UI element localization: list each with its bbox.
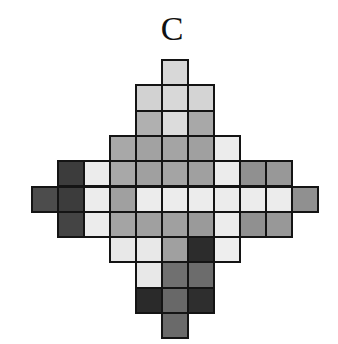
grid-cell [161, 186, 189, 213]
grid-cell [161, 59, 189, 86]
grid-cell [161, 160, 189, 187]
grid-cell [239, 160, 267, 187]
grid-cell [213, 160, 241, 187]
grid-cell [135, 261, 163, 288]
grid-cell [187, 261, 215, 288]
grid-cell [135, 135, 163, 162]
grid-cell [135, 211, 163, 238]
grid-cell [161, 110, 189, 137]
grayscale-cell-grid [0, 0, 338, 344]
grid-cell [187, 110, 215, 137]
grid-cell [239, 186, 267, 213]
grid-cell [109, 211, 137, 238]
grid-cell [187, 186, 215, 213]
grid-cell [135, 287, 163, 314]
grid-cell [239, 211, 267, 238]
grid-cell [213, 211, 241, 238]
grid-cell [213, 186, 241, 213]
grid-cell [135, 84, 163, 111]
grid-cell [161, 261, 189, 288]
grid-cell [213, 135, 241, 162]
grid-cell [265, 186, 293, 213]
grid-cell [161, 135, 189, 162]
grid-cell [31, 186, 59, 213]
grid-cell [109, 236, 137, 263]
grid-cell [57, 186, 85, 213]
grid-cell [213, 236, 241, 263]
grid-cell [83, 186, 111, 213]
grid-cell [135, 186, 163, 213]
grid-cell [57, 160, 85, 187]
grid-cell [187, 211, 215, 238]
grid-cell [109, 186, 137, 213]
grid-cell [187, 236, 215, 263]
grid-cell [109, 160, 137, 187]
grid-cell [109, 135, 137, 162]
grid-cell [187, 84, 215, 111]
grid-cell [187, 135, 215, 162]
grid-cell [83, 211, 111, 238]
grid-cell [187, 160, 215, 187]
grid-cell [135, 110, 163, 137]
grid-cell [187, 287, 215, 314]
grid-cell [161, 211, 189, 238]
grid-cell [161, 236, 189, 263]
grid-cell [161, 287, 189, 314]
grid-cell [265, 160, 293, 187]
grid-cell [265, 211, 293, 238]
grid-cell [57, 211, 85, 238]
grid-cell [291, 186, 319, 213]
grid-cell [135, 160, 163, 187]
grid-cell [161, 84, 189, 111]
grid-cell [135, 236, 163, 263]
grid-cell [83, 160, 111, 187]
grid-cell [161, 312, 189, 339]
